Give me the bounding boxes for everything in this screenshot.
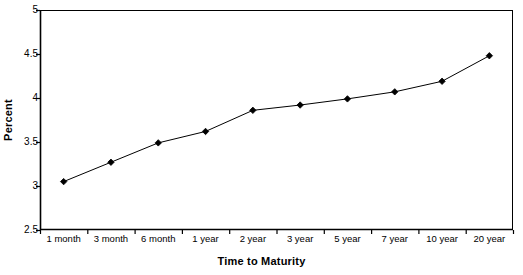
data-point-marker bbox=[439, 78, 445, 84]
x-tick-label: 1 month bbox=[46, 233, 80, 245]
data-point-marker bbox=[108, 159, 114, 165]
series-line bbox=[64, 56, 490, 182]
x-tick-label: 3 year bbox=[287, 233, 313, 245]
x-tick-label: 1 year bbox=[192, 233, 218, 245]
y-axis-ticks bbox=[36, 11, 40, 231]
x-axis-title-label: Time to Maturity bbox=[218, 255, 306, 267]
data-point-marker bbox=[392, 89, 398, 95]
series-markers bbox=[60, 53, 492, 185]
data-point-marker bbox=[250, 107, 256, 113]
x-tick-label: 7 year bbox=[382, 233, 408, 245]
x-tick-label: 3 month bbox=[94, 233, 128, 245]
x-tick-label: 2 year bbox=[240, 233, 266, 245]
plot-frame bbox=[40, 10, 513, 230]
data-point-marker bbox=[297, 102, 303, 108]
x-axis-tick-labels: 1 month3 month6 month1 year2 year3 year5… bbox=[0, 233, 523, 249]
data-point-marker bbox=[155, 140, 161, 146]
data-point-marker bbox=[202, 128, 208, 134]
data-point-marker bbox=[60, 178, 66, 184]
x-tick-label: 20 year bbox=[474, 233, 506, 245]
data-point-marker bbox=[486, 53, 492, 59]
x-tick-label: 5 year bbox=[334, 233, 360, 245]
x-tick-label: 10 year bbox=[426, 233, 458, 245]
yield-curve-chart: Percent 2.533.544.55 1 month3 month6 mon… bbox=[0, 0, 523, 275]
x-axis-title: Time to Maturity bbox=[0, 255, 523, 267]
x-tick-label: 6 month bbox=[141, 233, 175, 245]
data-point-marker bbox=[344, 96, 350, 102]
